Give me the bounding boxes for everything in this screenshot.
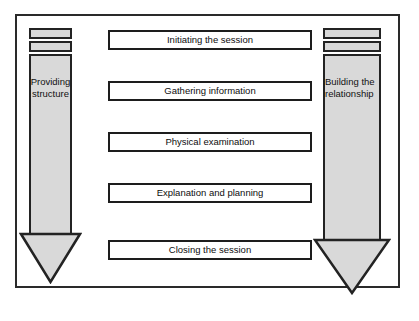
right-arrow-cap-bar-1	[323, 28, 381, 39]
step-box-initiating-the-session[interactable]: Initiating the session	[108, 30, 312, 50]
diagram-canvas: Providing structure Building the relatio…	[0, 0, 419, 321]
step-label: Initiating the session	[167, 35, 253, 45]
step-box-closing-the-session[interactable]: Closing the session	[108, 240, 312, 260]
left-arrow-cap-bar-2	[29, 41, 72, 52]
right-arrow-head-icon	[313, 238, 391, 295]
left-arrow-label: Providing structure	[29, 76, 72, 99]
left-arrow-cap-bar-1	[29, 28, 72, 39]
left-arrow-label-line1: Providing	[31, 76, 71, 87]
left-arrow-label-line2: structure	[32, 88, 69, 99]
right-arrow-cap-bar-2	[323, 41, 381, 52]
right-arrow-label-line2: relationship	[325, 88, 374, 99]
right-arrow-label-line1: Building the	[325, 76, 375, 87]
step-label: Closing the session	[169, 245, 251, 255]
step-box-physical-examination[interactable]: Physical examination	[108, 132, 312, 152]
step-label: Physical examination	[165, 137, 254, 147]
step-label: Explanation and planning	[157, 188, 264, 198]
step-box-explanation-and-planning[interactable]: Explanation and planning	[108, 183, 312, 203]
left-arrow-head-icon	[19, 232, 82, 284]
step-label: Gathering information	[164, 86, 255, 96]
right-arrow-label: Building the relationship	[325, 76, 385, 99]
step-box-gathering-information[interactable]: Gathering information	[108, 81, 312, 101]
